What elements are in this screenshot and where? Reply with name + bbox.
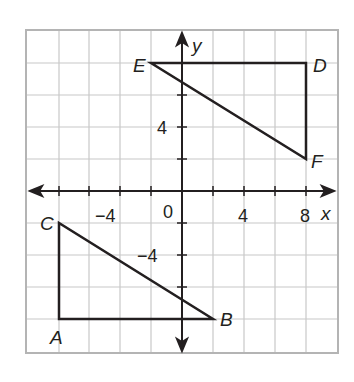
vertex-label-f: F bbox=[311, 151, 324, 172]
triangle-abc bbox=[59, 223, 213, 319]
x-tick-label-neg4: −4 bbox=[95, 206, 116, 226]
vertex-label-e: E bbox=[133, 55, 146, 76]
origin-label: 0 bbox=[163, 202, 173, 222]
vertex-label-d: D bbox=[313, 55, 327, 76]
x-axis-label: x bbox=[320, 203, 332, 224]
vertex-label-b: B bbox=[220, 309, 233, 330]
triangle-def bbox=[151, 63, 306, 159]
vertex-label-a: A bbox=[49, 327, 63, 348]
vertex-label-c: C bbox=[40, 213, 54, 234]
y-tick-label-4: 4 bbox=[157, 118, 167, 138]
x-tick-label-8: 8 bbox=[300, 206, 310, 226]
x-tick-label-4: 4 bbox=[238, 206, 248, 226]
y-tick-label-neg4: −4 bbox=[137, 246, 158, 266]
y-axis-label: y bbox=[190, 35, 203, 56]
coordinate-plane: x y 0 −4 4 8 4 −4 A B C D E F bbox=[0, 0, 354, 382]
